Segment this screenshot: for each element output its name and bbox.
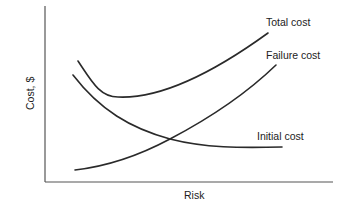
cost-risk-chart: Total cost Failure cost Initial cost Ris… (0, 0, 341, 202)
x-axis-label: Risk (184, 189, 205, 201)
total-cost-curve (78, 33, 268, 97)
y-axis-label: Cost, $ (24, 77, 36, 110)
initial-cost-label: Initial cost (257, 130, 304, 142)
failure-cost-label: Failure cost (266, 49, 320, 61)
total-cost-label: Total cost (266, 16, 310, 28)
failure-cost-curve (75, 65, 276, 170)
